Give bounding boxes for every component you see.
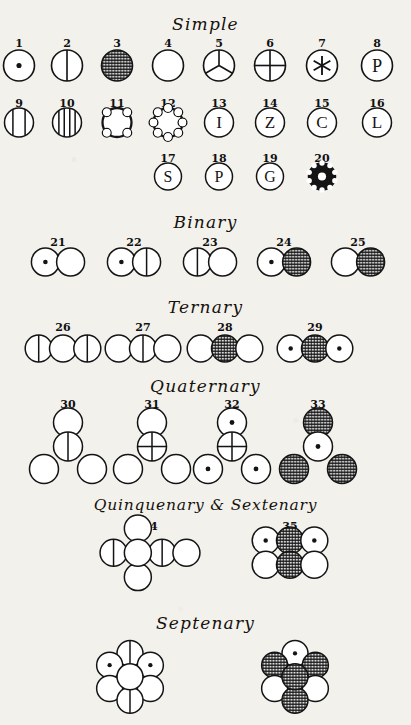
symbol-glyph-cluster bbox=[274, 332, 356, 365]
symbol-glyph-tetra bbox=[274, 405, 361, 485]
atomic-symbol-3[interactable] bbox=[99, 47, 136, 84]
svg-text:S: S bbox=[164, 168, 173, 185]
symbol-glyph-sexta bbox=[249, 524, 331, 581]
symbol-glyph-circle-letter: P bbox=[359, 47, 396, 84]
atomic-symbol-18[interactable]: P bbox=[203, 160, 236, 193]
symbol-glyph-tetra bbox=[188, 405, 275, 485]
atomic-symbol-8[interactable]: P bbox=[359, 47, 396, 84]
atomic-symbol-5[interactable] bbox=[201, 47, 238, 84]
svg-text:G: G bbox=[264, 168, 276, 185]
atomic-symbol-2[interactable] bbox=[49, 47, 86, 84]
symbol-glyph-hepta bbox=[259, 631, 332, 723]
symbol-glyph-circle-letter: L bbox=[360, 105, 395, 140]
symbol-glyph-circle-letter: P bbox=[203, 160, 236, 193]
section-heading-quinquenary: Quinquenary & Sextenary bbox=[0, 496, 411, 514]
atomic-symbol-19[interactable]: G bbox=[254, 160, 287, 193]
section-heading-quaternary: Quaternary bbox=[0, 376, 411, 396]
atomic-symbol-30[interactable] bbox=[24, 405, 111, 485]
atomic-symbol-14[interactable]: Z bbox=[253, 105, 288, 140]
symbol-glyph-circle-letter: Z bbox=[253, 105, 288, 140]
symbol-glyph-hepta bbox=[94, 631, 167, 723]
symbol-glyph-circle-cross bbox=[252, 47, 289, 84]
atomic-symbol-36[interactable] bbox=[94, 631, 167, 723]
symbols-plate: SimpleBinaryTernaryQuaternaryQuinquenary… bbox=[0, 0, 411, 725]
symbol-glyph-circle-letter: C bbox=[305, 105, 340, 140]
atomic-symbol-24[interactable] bbox=[254, 245, 313, 279]
symbol-glyph-cluster bbox=[28, 245, 87, 279]
atomic-symbol-10[interactable] bbox=[50, 105, 85, 140]
svg-text:Z: Z bbox=[265, 113, 275, 132]
atomic-symbol-22[interactable] bbox=[104, 245, 163, 279]
symbol-glyph-circle-letter: G bbox=[254, 160, 287, 193]
section-heading-binary: Binary bbox=[0, 212, 411, 232]
atomic-symbol-34[interactable] bbox=[96, 512, 204, 594]
symbol-glyph-circle-vline bbox=[49, 47, 86, 84]
atomic-symbol-23[interactable] bbox=[180, 245, 239, 279]
section-heading-simple: Simple bbox=[0, 14, 411, 34]
section-heading-ternary: Ternary bbox=[0, 297, 411, 317]
atomic-symbol-33[interactable] bbox=[274, 405, 361, 485]
symbol-glyph-circle-gear-dark bbox=[306, 160, 339, 193]
atomic-symbol-28[interactable] bbox=[184, 332, 266, 365]
svg-text:C: C bbox=[316, 113, 327, 132]
atomic-symbol-13[interactable]: I bbox=[202, 105, 237, 140]
atomic-symbol-15[interactable]: C bbox=[305, 105, 340, 140]
symbol-glyph-cluster bbox=[102, 332, 184, 365]
section-heading-septenary: Septenary bbox=[0, 613, 411, 633]
symbol-glyph-cluster bbox=[254, 245, 313, 279]
atomic-symbol-4[interactable] bbox=[150, 47, 187, 84]
atomic-symbol-21[interactable] bbox=[28, 245, 87, 279]
symbol-glyph-circle-plain bbox=[150, 47, 187, 84]
symbol-glyph-tetra bbox=[24, 405, 111, 485]
symbol-glyph-circle-trispoke bbox=[201, 47, 238, 84]
symbol-glyph-cluster bbox=[180, 245, 239, 279]
symbol-glyph-circle-stripes-2 bbox=[2, 105, 37, 140]
atomic-symbol-7[interactable] bbox=[304, 47, 341, 84]
atomic-symbol-9[interactable] bbox=[2, 105, 37, 140]
atomic-symbol-32[interactable] bbox=[188, 405, 275, 485]
atomic-symbol-27[interactable] bbox=[102, 332, 184, 365]
symbol-glyph-circle-letter: S bbox=[152, 160, 185, 193]
symbol-glyph-circle-notched-8 bbox=[151, 105, 186, 140]
symbol-glyph-circle-dot bbox=[1, 47, 38, 84]
atomic-symbol-20[interactable] bbox=[306, 160, 339, 193]
atomic-symbol-12[interactable] bbox=[151, 105, 186, 140]
symbol-glyph-circle-stripes-3 bbox=[50, 105, 85, 140]
atomic-symbol-6[interactable] bbox=[252, 47, 289, 84]
atomic-symbol-17[interactable]: S bbox=[152, 160, 185, 193]
svg-text:P: P bbox=[215, 168, 224, 185]
svg-text:I: I bbox=[216, 113, 222, 132]
atomic-symbol-31[interactable] bbox=[108, 405, 195, 485]
atomic-symbol-1[interactable] bbox=[1, 47, 38, 84]
symbol-glyph-circle-letter: I bbox=[202, 105, 237, 140]
atomic-symbol-29[interactable] bbox=[274, 332, 356, 365]
atomic-symbol-35[interactable] bbox=[249, 524, 331, 581]
atomic-symbol-11[interactable] bbox=[100, 105, 135, 140]
symbol-glyph-cluster bbox=[184, 332, 266, 365]
atomic-symbol-37[interactable] bbox=[259, 631, 332, 723]
atomic-symbol-26[interactable] bbox=[22, 332, 104, 365]
svg-text:L: L bbox=[372, 113, 382, 132]
symbol-glyph-circle-hatched bbox=[99, 47, 136, 84]
svg-text:P: P bbox=[372, 55, 382, 75]
symbol-glyph-cluster bbox=[22, 332, 104, 365]
symbol-glyph-tetra bbox=[108, 405, 195, 485]
symbol-glyph-circle-notched-4 bbox=[100, 105, 135, 140]
atomic-symbol-25[interactable] bbox=[328, 245, 387, 279]
symbol-glyph-penta bbox=[96, 512, 204, 594]
atomic-symbol-16[interactable]: L bbox=[360, 105, 395, 140]
symbol-glyph-circle-asterisk bbox=[304, 47, 341, 84]
symbol-glyph-cluster bbox=[328, 245, 387, 279]
symbol-glyph-cluster bbox=[104, 245, 163, 279]
